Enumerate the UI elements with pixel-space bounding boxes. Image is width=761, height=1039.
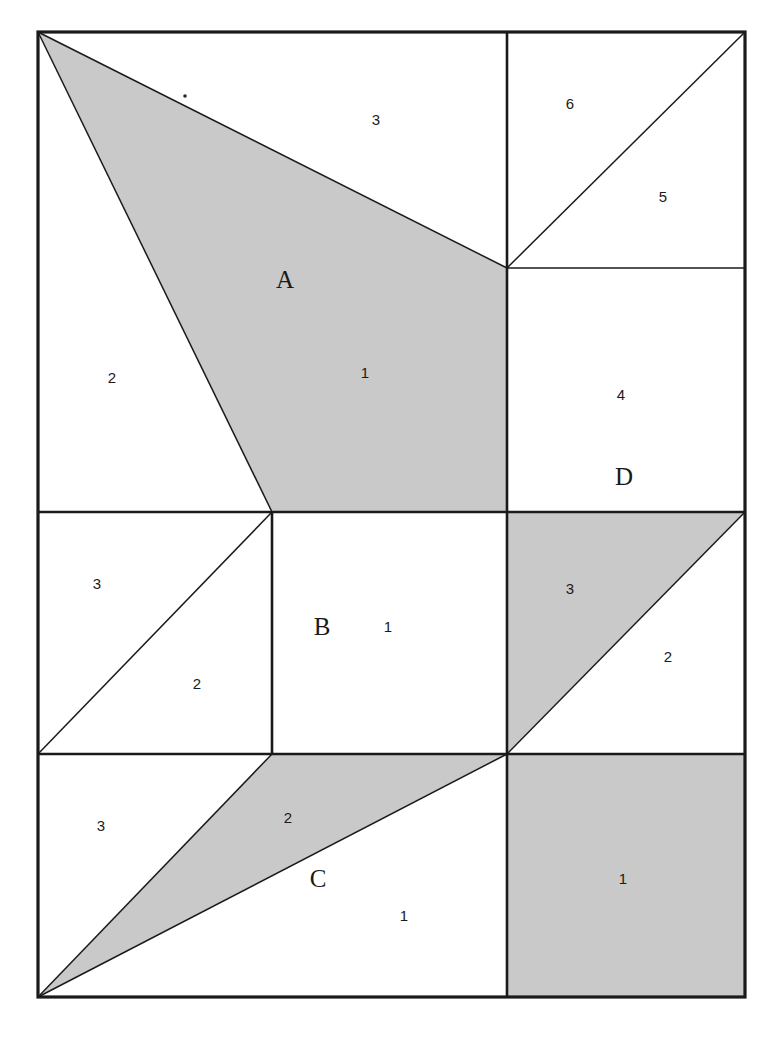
- region-d-label-4: 4: [617, 386, 625, 403]
- top-right-label-5: 5: [659, 188, 667, 205]
- region-a-letter: A: [276, 266, 294, 293]
- mid-left-label-3: 3: [93, 575, 101, 592]
- region-c-label-3: 3: [97, 817, 105, 834]
- mid-right-label-2: 2: [664, 648, 672, 665]
- bottom-right-label-1: 1: [619, 870, 627, 887]
- region-b-label-1: 1: [384, 618, 392, 635]
- region-a-label-3: 3: [372, 111, 380, 128]
- dissection-diagram-svg: A 3 2 1 6 5 4 D 3 2 B 1 3 2 3 2 C 1: [0, 0, 761, 1039]
- fills-layer: [38, 32, 745, 997]
- diagram-figure: A 3 2 1 6 5 4 D 3 2 B 1 3 2 3 2 C 1: [0, 0, 761, 1039]
- mid-right-label-3: 3: [566, 580, 574, 597]
- region-c-label-1: 1: [400, 907, 408, 924]
- region-b-letter: B: [314, 613, 331, 640]
- region-a-label-1: 1: [361, 364, 369, 381]
- region-d-letter: D: [615, 463, 633, 490]
- stray-dot-mark: [183, 94, 187, 98]
- mid-left-label-2: 2: [193, 675, 201, 692]
- region-a-label-2: 2: [108, 369, 116, 386]
- region-c-label-2: 2: [284, 809, 292, 826]
- region-c-letter: C: [310, 865, 327, 892]
- top-right-label-6: 6: [566, 95, 574, 112]
